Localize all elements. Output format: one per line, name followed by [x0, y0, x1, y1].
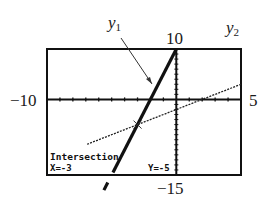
y1-label-sub: 1	[116, 21, 122, 33]
intersection-title: Intersection	[50, 152, 119, 162]
x-readout: X=-3	[50, 164, 72, 173]
ymax-label: 10	[166, 30, 183, 47]
y2-label: y2	[226, 19, 239, 38]
ymin-label: −15	[157, 180, 184, 197]
y1-label: y1	[108, 14, 121, 33]
xmax-label: 5	[249, 92, 258, 109]
y2-label-base: y	[226, 18, 234, 37]
y-readout: Y=-5	[148, 164, 170, 173]
xmin-label: −10	[10, 92, 37, 109]
y2-label-sub: 2	[234, 26, 240, 38]
y1-label-base: y	[108, 13, 116, 32]
